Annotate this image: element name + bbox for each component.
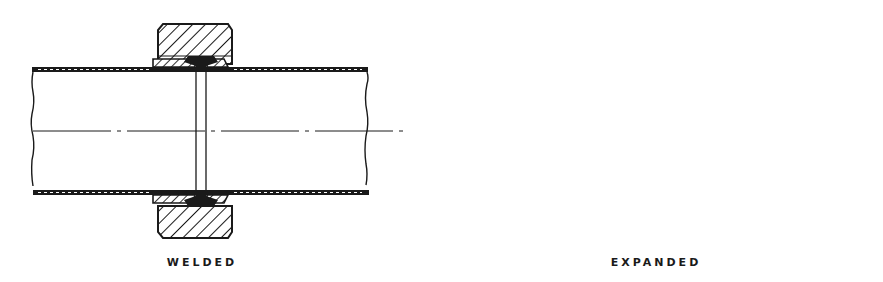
welded-break-line-left [31,72,34,186]
welded-break-line-right [365,72,368,185]
welded-joint-drawing [31,24,408,238]
welded-nut-bottom [158,206,232,238]
pipe-fitting-diagram [0,0,883,282]
welded-caption: WELDED [132,256,272,269]
expanded-caption: EXPANDED [586,256,726,269]
